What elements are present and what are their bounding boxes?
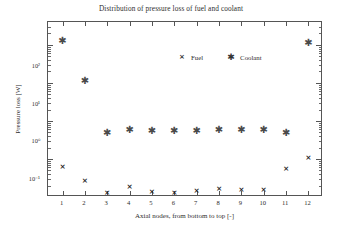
data-point-coolant-node-11: ✱	[282, 128, 290, 138]
data-point-fuel-node-5: ×	[149, 188, 155, 196]
y-axis-minor-tick	[48, 65, 51, 66]
legend-label-coolant: Coolant	[240, 54, 262, 61]
data-point-fuel-node-11: ×	[283, 165, 289, 173]
x-axis-tick-top	[63, 22, 64, 26]
y-axis-minor-tick-right	[319, 167, 322, 168]
x-axis-tick-label: 2	[82, 199, 85, 206]
data-point-fuel-node-9: ×	[238, 186, 244, 194]
x-axis-tick-label: 7	[194, 199, 197, 206]
legend-label-fuel: Fuel	[191, 54, 203, 61]
y-axis-minor-tick-right	[319, 170, 322, 171]
y-axis-tick-label: 10⁻¹	[29, 175, 40, 183]
y-axis-minor-tick-right	[319, 91, 322, 92]
y-axis-minor-tick-right	[319, 179, 322, 180]
y-axis-minor-tick-right	[319, 129, 322, 130]
y-axis-minor-tick	[48, 98, 51, 99]
y-axis-tick-label: 10⁰	[32, 137, 40, 145]
plot-frame: ××××××××××××✱✱✱✱✱✱✱✱✱✱✱✱ × Fuel ✱ Coolan…	[47, 21, 322, 196]
data-point-coolant-node-5: ✱	[148, 126, 156, 136]
y-axis-minor-tick-right	[319, 47, 322, 48]
y-axis-minor-tick	[48, 51, 51, 52]
data-point-coolant-node-4: ✱	[125, 125, 133, 135]
y-axis-minor-tick-right	[319, 56, 322, 57]
y-axis-minor-tick	[48, 53, 51, 54]
x-axis-tick	[85, 191, 86, 195]
data-point-fuel-node-2: ×	[82, 177, 88, 185]
y-axis-minor-tick-right	[319, 71, 322, 72]
y-axis-tick-labels: 10²10¹10⁰10⁻¹	[0, 21, 44, 196]
x-axis-tick-label: 1	[60, 199, 63, 206]
y-axis-minor-tick	[48, 167, 51, 168]
data-point-fuel-node-8: ×	[216, 185, 222, 193]
y-axis-minor-tick-right	[319, 132, 322, 133]
asterisk-marker-icon: ✱	[225, 52, 237, 62]
y-axis-minor-tick	[48, 87, 51, 88]
x-axis-tick-top	[85, 22, 86, 26]
legend-entry-fuel[interactable]: × Fuel	[176, 53, 225, 61]
legend-entry-coolant[interactable]: ✱ Coolant	[225, 52, 284, 62]
y-axis-minor-tick-right	[319, 161, 322, 162]
data-point-coolant-node-1: ✱	[58, 36, 66, 46]
x-axis-tick-top	[107, 22, 108, 26]
data-point-fuel-node-7: ×	[194, 187, 200, 195]
data-point-coolant-node-7: ✱	[192, 126, 200, 136]
y-axis-minor-tick-right	[319, 174, 322, 175]
y-axis-minor-tick	[48, 91, 51, 92]
y-axis-minor-tick-right	[319, 98, 322, 99]
y-axis-minor-tick-right	[319, 27, 322, 28]
data-point-coolant-node-3: ✱	[103, 128, 111, 138]
x-axis-tick-label: 10	[259, 199, 266, 206]
y-axis-minor-tick	[48, 161, 51, 162]
x-axis-tick-label: 6	[172, 199, 175, 206]
y-axis-minor-tick	[48, 136, 51, 137]
plot-area: ××××××××××××✱✱✱✱✱✱✱✱✱✱✱✱	[48, 22, 321, 195]
data-point-coolant-node-2: ✱	[81, 76, 89, 86]
y-axis-minor-tick	[48, 47, 51, 48]
y-axis-minor-tick	[48, 27, 51, 28]
x-axis-tick-label: 9	[239, 199, 242, 206]
x-axis-tick-top	[308, 22, 309, 26]
y-axis-minor-tick	[48, 174, 51, 175]
x-axis-label: Axial nodes, from bottom to top [-]	[47, 212, 322, 220]
x-axis-tick-label: 8	[216, 199, 219, 206]
chart-title: Distribution of pressure loss of fuel an…	[0, 4, 342, 13]
y-axis-minor-tick	[48, 71, 51, 72]
y-axis-minor-tick-right	[319, 89, 322, 90]
y-axis-minor-tick-right	[319, 136, 322, 137]
y-axis-minor-tick-right	[319, 163, 322, 164]
x-marker-icon: ×	[176, 53, 188, 61]
y-axis-minor-tick	[48, 186, 51, 187]
data-point-coolant-node-9: ✱	[237, 125, 245, 135]
data-point-coolant-node-10: ✱	[260, 125, 268, 135]
y-axis-minor-tick	[48, 85, 51, 86]
y-axis-minor-tick-right	[319, 141, 322, 142]
y-axis-minor-tick-right	[319, 103, 322, 104]
y-axis-minor-tick	[48, 132, 51, 133]
y-axis-minor-tick	[48, 165, 51, 166]
y-axis-minor-tick	[48, 123, 51, 124]
x-axis-tick-top	[264, 22, 265, 26]
data-point-fuel-node-12: ×	[305, 155, 311, 163]
x-axis-tick-label: 12	[304, 199, 311, 206]
y-axis-minor-tick	[48, 103, 51, 104]
chart-figure: Distribution of pressure loss of fuel an…	[0, 0, 342, 231]
y-axis-minor-tick	[48, 125, 51, 126]
y-axis-minor-tick-right	[319, 186, 322, 187]
data-point-fuel-node-1: ×	[59, 163, 65, 171]
data-point-fuel-node-10: ×	[261, 186, 267, 194]
x-axis-tick	[286, 191, 287, 195]
y-axis-minor-tick-right	[319, 148, 322, 149]
x-axis-tick	[308, 191, 309, 195]
y-axis-minor-tick	[48, 89, 51, 90]
y-axis-minor-tick	[48, 33, 51, 34]
y-axis-minor-tick	[48, 94, 51, 95]
y-axis-minor-tick-right	[319, 94, 322, 95]
x-axis-tick-labels: 123456789101112	[47, 198, 322, 210]
y-axis-minor-tick	[48, 49, 51, 50]
y-axis-minor-tick	[48, 60, 51, 61]
x-axis-tick	[63, 191, 64, 195]
y-axis-minor-tick-right	[319, 125, 322, 126]
x-axis-tick-top	[219, 22, 220, 26]
y-axis-minor-tick-right	[319, 85, 322, 86]
x-axis-tick-top	[152, 22, 153, 26]
